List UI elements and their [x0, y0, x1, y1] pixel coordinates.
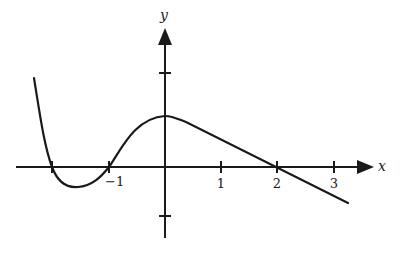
x-tick-label-3: 3: [330, 176, 338, 191]
x-axis-arrow-icon: [357, 160, 374, 174]
x-tick-label-neg1: −1: [105, 174, 124, 189]
function-graph: x y −1 1 2 3: [0, 0, 400, 254]
x-tick-label-2: 2: [273, 176, 281, 191]
x-tick-label-1: 1: [217, 176, 225, 191]
function-curve-left: [34, 78, 165, 187]
function-curve-right: [165, 116, 348, 203]
y-axis-arrow-icon: [158, 28, 172, 45]
x-axis-label: x: [378, 158, 386, 174]
y-axis-label: y: [159, 7, 169, 23]
